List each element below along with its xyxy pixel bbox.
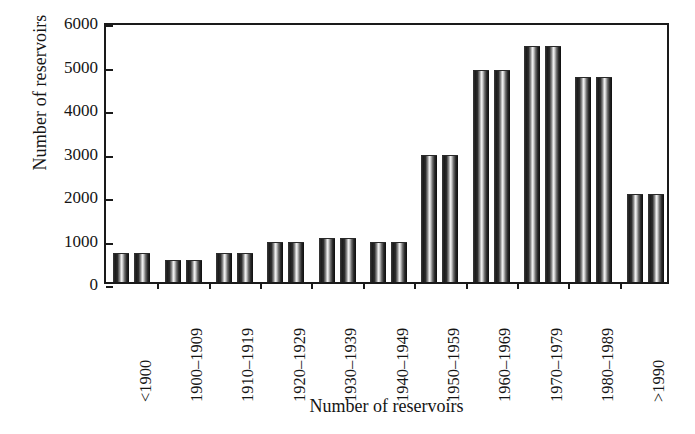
y-axis-tick-label: 1000: [38, 232, 98, 249]
y-axis-tick-label: 2000: [38, 189, 98, 206]
bar-group: [363, 25, 414, 282]
x-axis-tick-mark: [209, 282, 211, 289]
bar: [473, 70, 489, 282]
bar-group: [568, 25, 619, 282]
bar-group: [209, 25, 260, 282]
x-axis-tick-mark: [157, 282, 159, 289]
y-axis-tick-label: 4000: [38, 102, 98, 119]
y-axis-tick-label: 0: [38, 276, 98, 293]
bar-group: [311, 25, 362, 282]
x-axis-tick-label: 1960–1969: [497, 292, 514, 402]
bar: [134, 253, 150, 282]
x-axis-tick-label: 1910–1919: [241, 292, 258, 402]
x-axis-tick-mark: [260, 282, 262, 289]
x-axis-tick-label: 1920–1929: [292, 292, 309, 402]
x-axis-tick-mark: [311, 282, 313, 289]
y-axis-tick-label: 6000: [38, 15, 98, 32]
x-axis-tick-mark: [363, 282, 365, 289]
x-axis-tick-mark: [568, 282, 570, 289]
bar: [370, 242, 386, 282]
x-axis-tick-mark: [414, 282, 416, 289]
x-axis-title: Number of reservoirs: [104, 396, 669, 417]
x-axis-tick-labels: <19001900–19091910–19191920–19291930–193…: [104, 292, 669, 388]
chart-figure: Number of reservoirs 0100020003000400050…: [0, 0, 695, 434]
bar-group: [414, 25, 465, 282]
bar: [596, 77, 612, 282]
bar: [421, 155, 437, 282]
x-axis-tick-label: 1930–1939: [343, 292, 360, 402]
x-axis-tick-label: <1900: [138, 292, 155, 402]
bar: [627, 194, 643, 282]
bar: [340, 238, 356, 283]
bar: [545, 46, 561, 282]
bar: [442, 155, 458, 282]
bar-group: [620, 25, 671, 282]
bar-group: [517, 25, 568, 282]
x-axis-tick-mark: [466, 282, 468, 289]
x-axis-tick-label: 1940–1949: [395, 292, 412, 402]
y-axis-tick-label: 5000: [38, 58, 98, 75]
plot-area: [104, 23, 669, 284]
bar: [288, 242, 304, 282]
bar: [575, 77, 591, 282]
x-axis-tick-label: 1950–1959: [446, 292, 463, 402]
x-axis-tick-label: >1990: [652, 292, 669, 402]
bar: [391, 242, 407, 282]
bar-group: [260, 25, 311, 282]
x-axis-tick-label: 1900–1909: [189, 292, 206, 402]
x-axis-tick-mark: [620, 282, 622, 289]
y-axis-tick-labels: 0100020003000400050006000: [38, 23, 98, 284]
x-axis-tick-label: 1970–1979: [549, 292, 566, 402]
x-axis-tick-mark: [517, 282, 519, 289]
bar: [648, 194, 664, 282]
bar-group: [157, 25, 208, 282]
bar: [237, 253, 253, 282]
bar-group: [106, 25, 157, 282]
bar: [524, 46, 540, 282]
bar: [267, 242, 283, 282]
bar: [494, 70, 510, 282]
bar-group: [466, 25, 517, 282]
y-axis-tick-label: 3000: [38, 145, 98, 162]
x-axis-tick-label: 1980–1989: [600, 292, 617, 402]
bar-series-container: [106, 25, 667, 282]
bar: [216, 253, 232, 282]
bar: [113, 253, 129, 282]
bar: [319, 238, 335, 283]
bar: [186, 260, 202, 282]
bar: [165, 260, 181, 282]
y-axis-tick-mark: [106, 286, 113, 288]
